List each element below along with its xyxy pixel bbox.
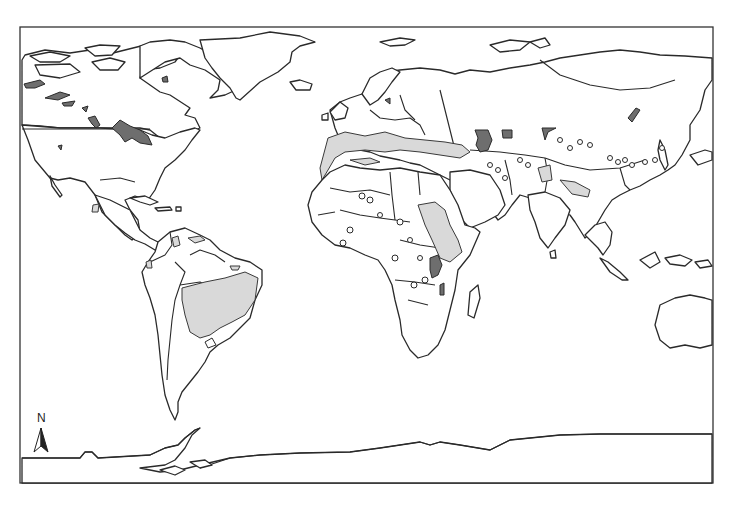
light-region [230, 266, 240, 270]
north-arrow-right [41, 428, 48, 452]
light-region [92, 204, 99, 212]
light-region [350, 158, 380, 165]
dark-region [162, 76, 168, 82]
map-canvas [0, 0, 731, 507]
light-region [172, 236, 180, 247]
south-america [142, 228, 262, 420]
antarctica [22, 428, 712, 483]
north-america [22, 32, 315, 250]
north-arrow [34, 428, 48, 452]
dark-region [440, 283, 444, 295]
north-label: N [37, 411, 46, 425]
north-arrow-left [34, 428, 41, 452]
light-region [146, 260, 152, 268]
world-map: N [0, 0, 731, 507]
dark-region [502, 130, 512, 138]
australia [655, 295, 712, 348]
